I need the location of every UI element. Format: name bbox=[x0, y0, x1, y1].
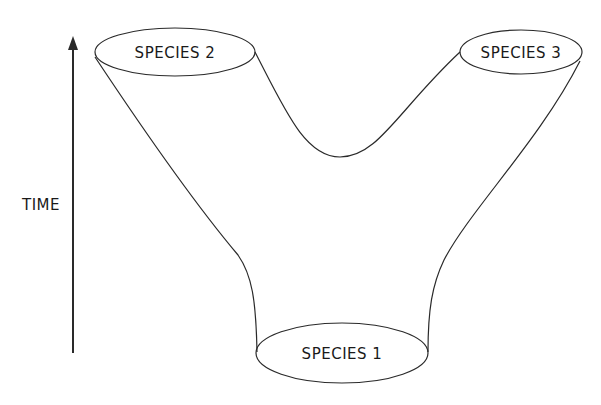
left-branch-outer-edge bbox=[95, 57, 257, 352]
species-3-node: SPECIES 3 bbox=[460, 30, 582, 74]
inner-branch-curve bbox=[255, 52, 460, 157]
species-2-label: SPECIES 2 bbox=[135, 44, 216, 62]
species-1-node: SPECIES 1 bbox=[256, 323, 428, 383]
arrow-up-icon bbox=[68, 36, 78, 50]
speciation-diagram: TIME SPECIES 2 SPECIES 3 SPECIES 1 bbox=[0, 0, 601, 405]
time-axis bbox=[68, 36, 78, 353]
species-2-node: SPECIES 2 bbox=[95, 28, 255, 76]
species-3-label: SPECIES 3 bbox=[481, 44, 562, 62]
species-1-label: SPECIES 1 bbox=[302, 345, 383, 363]
right-branch-outer-edge bbox=[428, 61, 580, 352]
time-label: TIME bbox=[21, 196, 60, 214]
